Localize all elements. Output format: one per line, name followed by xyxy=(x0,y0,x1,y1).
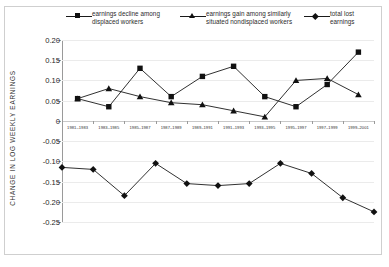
legend-entry-earnings-decline: earnings decline among displaced workers xyxy=(66,10,178,26)
legend-label: earnings gain among similarly situated n… xyxy=(206,10,302,26)
square-data-point xyxy=(169,94,174,99)
y-axis-tick-label: 0.15 xyxy=(20,56,60,65)
triangle-data-point xyxy=(106,85,113,91)
triangle-data-point xyxy=(355,91,362,97)
triangle-marker-icon xyxy=(180,11,206,22)
y-axis-tick-label: 0.20 xyxy=(20,36,60,45)
square-data-point xyxy=(262,94,267,99)
square-data-point xyxy=(356,49,361,54)
legend-entry-earnings-gain: earnings gain among similarly situated n… xyxy=(180,10,302,26)
square-data-point xyxy=(106,104,111,109)
square-data-point xyxy=(137,66,142,71)
legend-label: earnings decline among displaced workers xyxy=(92,10,178,26)
gridline xyxy=(62,222,374,223)
diamond-data-point xyxy=(183,180,190,187)
y-axis-tick-label: -0.25 xyxy=(20,218,60,227)
square-data-point xyxy=(231,64,236,69)
legend-entry-total-lost: total lost earnings xyxy=(304,10,378,26)
y-axis-tick-label: 0 xyxy=(20,116,60,125)
square-marker-icon xyxy=(66,11,92,22)
chart-legend: earnings decline among displaced workers… xyxy=(66,10,378,34)
x-axis-tick xyxy=(374,121,375,124)
y-axis-tick-label: -0.10 xyxy=(20,157,60,166)
series-line-2 xyxy=(78,78,359,116)
legend-label: total lost earnings xyxy=(330,10,378,26)
square-data-point xyxy=(325,82,330,87)
y-axis-tick-label: 0.10 xyxy=(20,76,60,85)
diamond-data-point xyxy=(277,160,284,167)
y-axis-tick-label: -0.05 xyxy=(20,137,60,146)
chart-figure: earnings decline among displaced workers… xyxy=(0,0,389,267)
y-axis-title: CHANGE IN LOG WEEKLY EARNINGS xyxy=(5,48,19,228)
diamond-data-point xyxy=(246,180,253,187)
diamond-marker-icon xyxy=(304,11,330,22)
y-axis-tick-label: -0.15 xyxy=(20,177,60,186)
plot-area: 0.200.150.100.050-0.05-0.10-0.15-0.20-0.… xyxy=(62,40,374,222)
y-axis-tick-label: 0.05 xyxy=(20,96,60,105)
square-data-point xyxy=(293,104,298,109)
diamond-data-point xyxy=(215,182,222,189)
y-axis-tick-label: -0.20 xyxy=(20,197,60,206)
series-layer xyxy=(62,40,374,222)
square-data-point xyxy=(200,74,205,79)
